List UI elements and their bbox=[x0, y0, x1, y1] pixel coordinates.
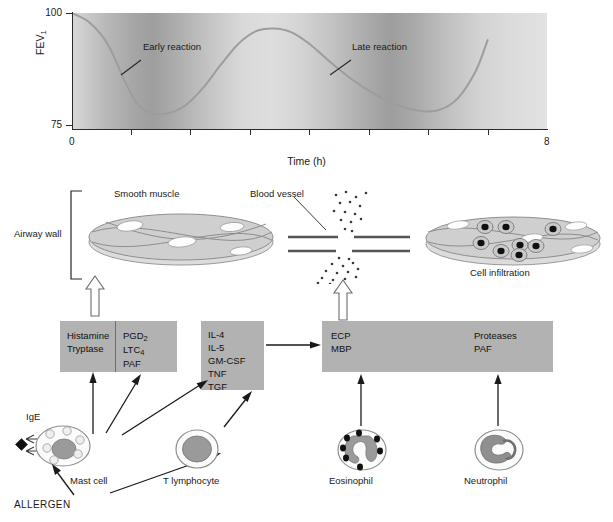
effector-proteases: Proteases bbox=[474, 329, 517, 342]
eosinophil-label: Eosinophil bbox=[329, 475, 373, 487]
neutrophil-label: Neutrophil bbox=[464, 475, 507, 487]
y-axis-title-subscript: 1 bbox=[39, 30, 48, 34]
x-axis-title: Time (h) bbox=[0, 155, 613, 167]
asthma-mechanism-diagram: Airway wall Smooth muscle Blood vessel bbox=[0, 175, 613, 522]
x-tick-2 bbox=[190, 130, 191, 135]
smooth-muscle-label: Smooth muscle bbox=[114, 188, 179, 200]
mediator-pgd2: PGD2 bbox=[123, 329, 148, 343]
cell-infiltration-label: Cell infiltration bbox=[470, 267, 530, 279]
arrow-allergen-to-mast-cell bbox=[50, 463, 80, 497]
mediator-box-divider bbox=[115, 321, 116, 372]
effector-paf: PAF bbox=[474, 342, 517, 355]
x-tick-3 bbox=[250, 130, 251, 135]
x-tick-4 bbox=[309, 130, 310, 135]
blood-vessel-illustration bbox=[288, 189, 410, 284]
chart-plot-area bbox=[72, 13, 547, 129]
cytokine-il5: IL-5 bbox=[208, 341, 245, 354]
x-tick-label-8: 8 bbox=[544, 136, 550, 147]
mediator-box: Histamine Tryptase PGD2 LTC4 PAF bbox=[60, 321, 177, 372]
fev1-time-chart: 100 75 0 8 FEV1 Time (h) Early reaction … bbox=[0, 0, 613, 175]
hollow-arrow-to-blood-vessel bbox=[332, 279, 354, 321]
late-reaction-leader bbox=[330, 60, 351, 75]
effector-box: ECP MBP Proteases PAF bbox=[322, 321, 553, 372]
arrow-eosinophil-to-effectors bbox=[355, 373, 367, 427]
early-reaction-leader bbox=[121, 60, 141, 75]
y-axis-line bbox=[72, 12, 73, 130]
x-tick-7 bbox=[488, 130, 489, 135]
x-tick-1 bbox=[131, 130, 132, 135]
annotation-early-reaction: Early reaction bbox=[143, 41, 201, 52]
effector-ecp: ECP bbox=[331, 329, 352, 342]
y-tick-75 bbox=[66, 125, 72, 126]
x-tick-6 bbox=[428, 130, 429, 135]
y-tick-100 bbox=[66, 13, 72, 14]
cytokine-il4: IL-4 bbox=[208, 328, 245, 341]
t-lymphocyte-illustration bbox=[170, 424, 224, 474]
effector-mbp: MBP bbox=[331, 342, 352, 355]
arrow-neutrophil-to-effectors bbox=[492, 373, 504, 427]
smooth-muscle-illustration bbox=[86, 206, 276, 274]
mediator-histamine: Histamine bbox=[67, 329, 109, 342]
mediator-ltc4: LTC4 bbox=[123, 343, 148, 357]
fev1-curve bbox=[72, 13, 547, 129]
x-tick-5 bbox=[369, 130, 370, 135]
y-axis-title-text: FEV bbox=[34, 35, 46, 55]
y-axis-title: FEV1 bbox=[34, 30, 46, 55]
y-tick-label-100: 100 bbox=[34, 7, 62, 18]
hollow-arrow-to-smooth-muscle bbox=[84, 275, 106, 317]
allergen-label: ALLERGEN bbox=[14, 499, 71, 512]
x-tick-label-0: 0 bbox=[69, 136, 75, 147]
arrow-cytokines-to-effectors bbox=[266, 338, 322, 352]
airway-wall-label: Airway wall bbox=[14, 228, 62, 240]
cell-infiltration-illustration bbox=[424, 208, 602, 270]
airway-wall-bracket bbox=[68, 190, 84, 280]
annotation-late-reaction: Late reaction bbox=[352, 41, 407, 52]
arrow-tcell-to-cytokines bbox=[222, 389, 254, 429]
eosinophil-illustration bbox=[333, 425, 391, 475]
neutrophil-illustration bbox=[470, 425, 528, 475]
t-lymphocyte-label: T lymphocyte bbox=[163, 475, 219, 487]
y-tick-label-75: 75 bbox=[34, 119, 62, 130]
x-axis-line bbox=[72, 129, 548, 130]
cytokine-gmcsf: GM-CSF bbox=[208, 354, 245, 367]
mediator-tryptase: Tryptase bbox=[67, 342, 109, 355]
mediator-paf: PAF bbox=[123, 357, 148, 370]
